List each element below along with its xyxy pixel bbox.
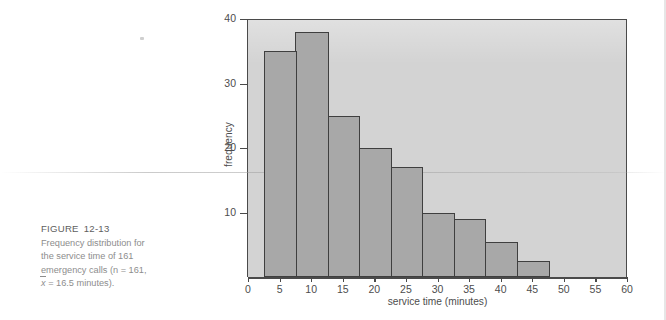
x-axis-tick [248, 277, 249, 282]
x-axis-tick [343, 277, 344, 282]
histogram-bar [264, 51, 297, 277]
x-axis-tick [595, 277, 596, 282]
x-axis-tick [374, 277, 375, 282]
x-axis-tick [438, 277, 439, 282]
y-axis-tick [240, 84, 247, 85]
histogram-bar [453, 219, 486, 277]
plot-area [248, 19, 627, 277]
histogram-bar [359, 148, 392, 277]
x-axis-tick [627, 277, 628, 282]
x-axis-tick [406, 277, 407, 282]
y-axis-tick [240, 213, 247, 214]
y-axis-tick [240, 148, 247, 149]
histogram-bar [422, 213, 455, 278]
histogram-bar [516, 261, 549, 277]
x-axis-tick [532, 277, 533, 282]
x-axis-title: service time (minutes) [248, 296, 627, 307]
histogram-bar [390, 167, 423, 277]
x-axis-tick [469, 277, 470, 282]
histogram-bar [485, 242, 518, 277]
y-axis-tick-label: 10 [206, 206, 236, 218]
y-axis-title: frequency [223, 85, 234, 205]
x-axis-tick [564, 277, 565, 282]
histogram-bar [327, 116, 360, 277]
x-axis-tick [280, 277, 281, 282]
histogram-bar [295, 32, 328, 277]
y-axis-tick [240, 19, 247, 20]
y-axis-tick-label: 40 [206, 12, 236, 24]
x-axis-tick [501, 277, 502, 282]
x-axis-tick-label: 60 [607, 283, 647, 295]
histogram-chart: 051015202530354045505560 10203040 servic… [0, 0, 666, 320]
x-axis-tick [311, 277, 312, 282]
bar-series [248, 20, 626, 277]
